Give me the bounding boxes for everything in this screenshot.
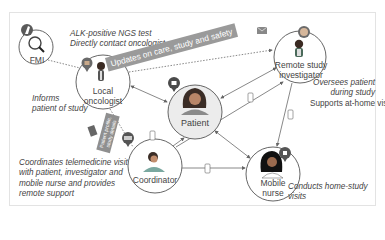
nurse-label: Mobile nurse	[253, 178, 293, 198]
patient-pin-icon	[168, 77, 180, 92]
coordinator-note-line3: mobile nurse and provides	[19, 179, 128, 189]
microscope-icon	[21, 24, 33, 36]
coordinator-note: Coordinates telemedicine visit with pati…	[19, 158, 128, 200]
phone-icon-2	[248, 93, 253, 102]
coordinator-pin-icon	[122, 132, 134, 147]
investigator-note-line2: during study	[310, 88, 375, 98]
oncologist-note-line2: patient of study	[32, 104, 88, 114]
phone-icon-4	[205, 164, 210, 173]
phone-icon-3	[288, 110, 293, 119]
investigator-avatar	[295, 40, 303, 57]
patient-nurse-line	[215, 131, 250, 158]
envelope-icon	[257, 27, 267, 34]
investigator-note-line1: Oversees patient	[310, 78, 375, 88]
investigator-note: Oversees patient during study Supports a…	[310, 78, 375, 109]
investigator-note-line3: Supports at-home visits	[310, 99, 375, 109]
fmi-label: FMI	[22, 55, 52, 65]
doctor-avatar	[97, 62, 105, 81]
coordinator-patient-line	[173, 138, 184, 146]
coordinator-note-line2: with patient, investigator and	[19, 168, 128, 178]
investigator-label-line1: Remote study	[272, 60, 330, 70]
coordinator-note-line1: Coordinates telemedicine visit	[19, 158, 128, 168]
fmi-note-line1: ALK-positive NGS test	[70, 29, 165, 39]
coordinator-label: Coordinator	[127, 175, 183, 185]
fmi-to-oncologist-line	[48, 60, 80, 68]
investigator-pin-icon	[298, 26, 310, 38]
oncologist-note: Informs patient of study	[32, 94, 88, 115]
investigator-label: Remote study investigator	[272, 60, 330, 80]
oncologist-note-line1: Informs	[32, 94, 88, 104]
nurse-label-line2: nurse	[253, 188, 293, 198]
patient-label: Patient	[170, 118, 220, 128]
nurse-note-line1: Conducts home-study	[288, 182, 368, 192]
nurse-label-line1: Mobile	[253, 178, 293, 188]
envelope-icon-2	[87, 125, 97, 137]
oncologist-patient-line	[131, 86, 167, 102]
phone-icon-1	[150, 131, 155, 140]
nurse-note-line2: visits	[288, 192, 368, 202]
coordinator-note-line4: remote support	[19, 189, 128, 199]
nurse-note: Conducts home-study visits	[288, 182, 368, 203]
